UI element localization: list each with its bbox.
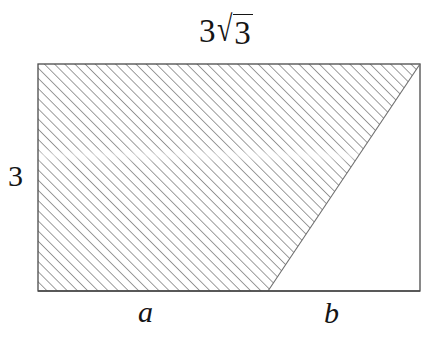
label-segment-a: a (138, 297, 153, 327)
square-root-icon: √3 (217, 14, 253, 50)
radical-sign: √ (217, 13, 232, 46)
label-top-side: 3√3 (199, 14, 253, 50)
hatched-region (38, 64, 420, 291)
label-segment-b: b (324, 298, 339, 328)
label-left-side: 3 (8, 161, 23, 191)
figure-canvas (0, 0, 447, 339)
geometry-figure: 3√3 3 a b (0, 0, 447, 339)
top-label-radicand: 3 (233, 14, 253, 50)
top-label-coefficient: 3 (199, 15, 216, 48)
